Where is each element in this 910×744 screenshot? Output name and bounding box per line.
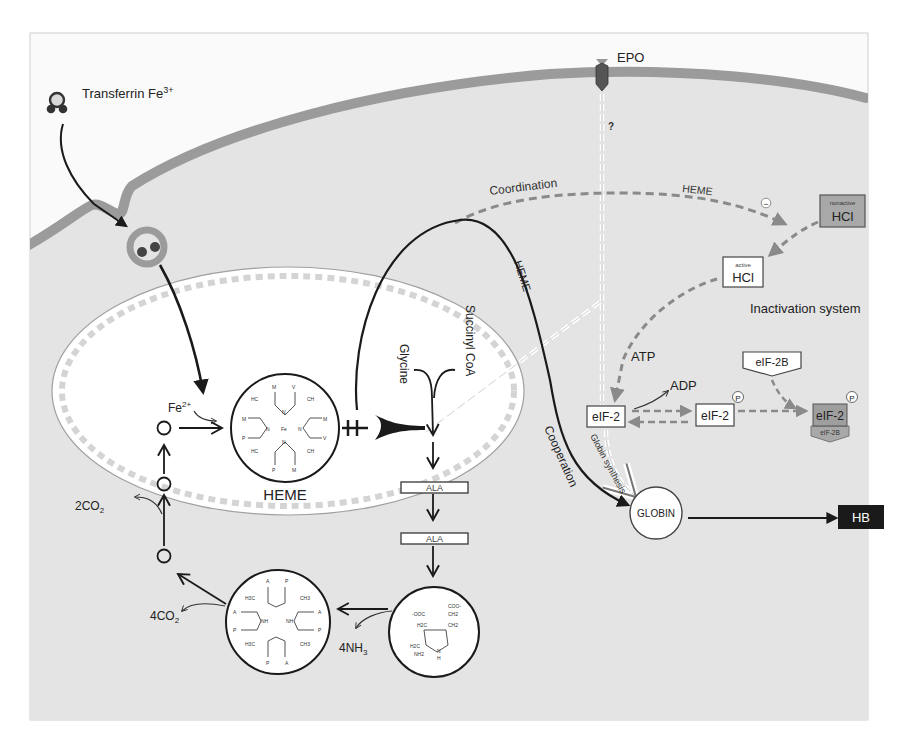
svg-text:NH: NH bbox=[261, 618, 269, 624]
svg-text:eIF-2: eIF-2 bbox=[592, 410, 620, 424]
svg-text:ALA: ALA bbox=[426, 483, 443, 493]
svg-text:M: M bbox=[292, 467, 296, 473]
svg-text:N: N bbox=[298, 426, 302, 432]
svg-text:eIF-2: eIF-2 bbox=[701, 409, 729, 423]
svg-text:COO-: COO- bbox=[448, 603, 461, 609]
svg-text:H3C: H3C bbox=[245, 595, 255, 601]
eif2-eif2b-complex: eIF-2B eIF-2 bbox=[811, 404, 849, 442]
svg-text:CH2: CH2 bbox=[448, 611, 458, 617]
svg-text:eIF-2B: eIF-2B bbox=[755, 356, 788, 368]
question-mark: ? bbox=[608, 121, 614, 132]
svg-text:CH3: CH3 bbox=[300, 595, 310, 601]
svg-text:eIF-2: eIF-2 bbox=[816, 409, 844, 423]
svg-text:active: active bbox=[735, 262, 751, 268]
adp-label: ADP bbox=[670, 378, 697, 393]
svg-text:−: − bbox=[763, 199, 768, 209]
svg-text:HCl: HCl bbox=[732, 270, 754, 285]
phosphate-icon: P bbox=[733, 392, 744, 403]
phosphate-icon: P bbox=[847, 392, 858, 403]
svg-text:NH: NH bbox=[286, 618, 294, 624]
svg-text:M: M bbox=[272, 384, 276, 390]
transferrin-label: Transferrin Fe3+ bbox=[82, 85, 173, 101]
svg-text:Fe: Fe bbox=[281, 426, 287, 432]
eif2-box: eIF-2 bbox=[587, 406, 625, 427]
svg-text:ALA: ALA bbox=[426, 534, 443, 544]
svg-text:P: P bbox=[849, 394, 854, 403]
svg-text:HCl: HCl bbox=[832, 209, 854, 224]
inactivation-system-label: Inactivation system bbox=[750, 301, 861, 316]
svg-text:CH3: CH3 bbox=[300, 641, 310, 647]
svg-text:HC: HC bbox=[251, 448, 259, 454]
ala-box-mito: ALA bbox=[401, 482, 468, 493]
svg-text:GLOBIN: GLOBIN bbox=[637, 508, 675, 519]
atp-label: ATP bbox=[631, 349, 655, 364]
svg-text:HB: HB bbox=[852, 510, 870, 525]
hb-box: HB bbox=[838, 505, 884, 529]
svg-text:nonactive: nonactive bbox=[830, 200, 856, 206]
porphyrinogen-structure: A P H3C CH3 A P NH NH A P H3C CH3 P A bbox=[226, 570, 330, 674]
globin-node: GLOBIN bbox=[630, 487, 682, 539]
svg-text:P: P bbox=[735, 394, 740, 403]
svg-text:M: M bbox=[242, 416, 246, 422]
svg-text:-OOC: -OOC bbox=[412, 611, 425, 617]
eif2-phosphorylated-box: eIF-2 bbox=[696, 404, 734, 426]
ala-box-cytoplasm: ALA bbox=[401, 533, 468, 544]
epo-label: EPO bbox=[617, 50, 644, 65]
svg-text:N: N bbox=[282, 439, 286, 445]
nonactive-hcl-box: nonactive HCl bbox=[820, 195, 865, 227]
svg-text:M: M bbox=[323, 416, 327, 422]
svg-text:N: N bbox=[266, 426, 270, 432]
svg-text:H: H bbox=[437, 655, 441, 661]
endosome-icon bbox=[130, 230, 164, 264]
svg-text:CH: CH bbox=[307, 448, 315, 454]
succinyl-coa-label: Succinyl CoA bbox=[463, 305, 477, 376]
active-hcl-box: active HCl bbox=[723, 257, 763, 287]
svg-text:H2C: H2C bbox=[417, 622, 427, 628]
svg-text:CH: CH bbox=[307, 396, 315, 402]
heme-globin-pathway-diagram: Transferrin Fe3+ EPO ? Coordination HEME… bbox=[0, 0, 910, 744]
svg-text:HC: HC bbox=[251, 396, 259, 402]
porphobilinogen-structure: COO- -OOC CH2 H2C CH2 H2C NH2 N H bbox=[389, 587, 479, 677]
heme-label: HEME bbox=[263, 486, 306, 503]
svg-text:eIF-2B: eIF-2B bbox=[820, 429, 840, 436]
svg-text:H3C: H3C bbox=[245, 641, 255, 647]
inhibition-marker: − bbox=[761, 198, 771, 208]
heme-structure: M V HC CH M P N Fe N N N M V HC CH P M bbox=[231, 374, 339, 482]
svg-text:NH2: NH2 bbox=[414, 651, 424, 657]
svg-text:H2C: H2C bbox=[410, 643, 420, 649]
svg-text:CH2: CH2 bbox=[448, 622, 458, 628]
glycine-label: Glycine bbox=[397, 344, 411, 384]
svg-text:N: N bbox=[282, 409, 286, 415]
